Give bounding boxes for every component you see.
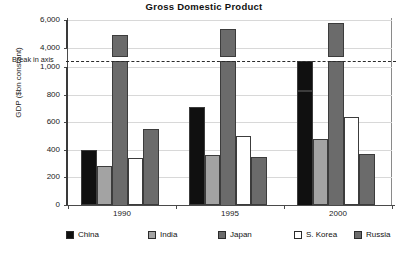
chart-legend: ChinaIndiaJapanS. KoreaRussia	[0, 230, 408, 246]
legend-item-skorea[interactable]: S. Korea	[294, 230, 337, 239]
x-axis-tick	[392, 205, 393, 209]
legend-swatch-icon	[218, 231, 226, 239]
x-axis-tick	[68, 205, 69, 209]
axis-break-line	[66, 61, 396, 62]
bar-russia-1990	[143, 129, 159, 205]
legend-item-china[interactable]: China	[66, 230, 99, 239]
bar-india-2000	[313, 139, 329, 205]
legend-swatch-icon	[66, 231, 74, 239]
bar-china-1995	[189, 107, 205, 205]
bar-japan-2000-lower	[328, 61, 344, 205]
bar-japan-2000-upper	[328, 23, 344, 57]
y-axis-tick-label: 4,000	[8, 43, 60, 52]
x-axis-tick	[176, 205, 177, 209]
legend-label: Japan	[230, 230, 252, 239]
chart-container: Gross Domestic Product GDP ($bn constant…	[0, 0, 408, 253]
bar-japan-1995-lower	[220, 61, 236, 205]
axis-spine-segment	[66, 67, 68, 205]
bar-india-1990	[97, 166, 113, 205]
y-axis-tick-label: 600	[8, 117, 60, 126]
x-axis-line	[67, 205, 395, 206]
x-axis-tick	[284, 205, 285, 209]
y-axis-tick-label: 200	[8, 172, 60, 181]
bar-russia-2000	[359, 154, 375, 205]
legend-swatch-icon	[148, 231, 156, 239]
x-axis-label-1990: 1990	[92, 209, 152, 218]
bar-japan-1990-lower	[112, 61, 128, 205]
legend-label: India	[160, 230, 177, 239]
legend-label: S. Korea	[306, 230, 337, 239]
legend-label: China	[78, 230, 99, 239]
bar-skorea-1990	[128, 158, 144, 205]
y-axis-tick	[64, 48, 68, 49]
legend-item-russia[interactable]: Russia	[354, 230, 390, 239]
x-axis-label-2000: 2000	[308, 209, 368, 218]
x-axis-label-1995: 1995	[200, 209, 260, 218]
bar-china-2000-upper	[297, 90, 313, 92]
legend-item-india[interactable]: India	[148, 230, 177, 239]
y-axis-tick-label: 6,000	[8, 15, 60, 24]
bar-japan-1995-upper	[220, 29, 236, 57]
legend-swatch-icon	[354, 231, 362, 239]
y-axis-tick-label: 800	[8, 90, 60, 99]
y-axis-tick-label: 1,000	[8, 62, 60, 71]
legend-swatch-icon	[294, 231, 302, 239]
bar-japan-1990-upper	[112, 35, 128, 57]
y-axis-tick-label: 0	[8, 200, 60, 209]
bar-china-2000-lower	[297, 61, 313, 205]
plot-area	[68, 18, 392, 205]
bar-russia-1995	[251, 157, 267, 205]
legend-label: Russia	[366, 230, 390, 239]
bar-china-1990	[81, 150, 97, 205]
bar-india-1995	[205, 155, 221, 205]
bar-skorea-1995	[236, 136, 252, 205]
y-axis-tick-label: 400	[8, 145, 60, 154]
bar-skorea-2000	[344, 117, 360, 205]
legend-item-japan[interactable]: Japan	[218, 230, 252, 239]
gridline	[68, 20, 392, 21]
chart-title: Gross Domestic Product	[0, 1, 408, 12]
axis-spine-segment	[66, 20, 68, 48]
